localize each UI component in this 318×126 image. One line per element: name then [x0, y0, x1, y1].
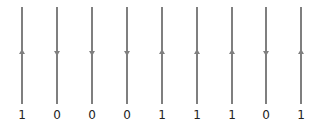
bit-label: 0 — [82, 108, 102, 122]
wire-line — [21, 7, 23, 104]
arrow-down-icon — [124, 51, 130, 56]
wire-7: 1 — [222, 0, 242, 126]
wire-line — [161, 7, 163, 104]
wire-line — [300, 7, 302, 104]
wire-6: 1 — [187, 0, 207, 126]
arrow-down-icon — [263, 51, 269, 56]
wire-8: 0 — [256, 0, 276, 126]
bit-label: 1 — [222, 108, 242, 122]
wire-2: 0 — [47, 0, 67, 126]
wire-4: 0 — [117, 0, 137, 126]
arrow-down-icon — [54, 51, 60, 56]
arrow-up-icon — [229, 49, 235, 54]
arrow-up-icon — [298, 49, 304, 54]
wire-3: 0 — [82, 0, 102, 126]
bit-label: 0 — [256, 108, 276, 122]
wire-line — [196, 7, 198, 104]
arrow-up-icon — [194, 49, 200, 54]
bit-label: 0 — [47, 108, 67, 122]
bit-label: 0 — [117, 108, 137, 122]
bit-label: 1 — [187, 108, 207, 122]
arrow-up-icon — [159, 49, 165, 54]
arrow-down-icon — [89, 51, 95, 56]
arrow-up-icon — [19, 49, 25, 54]
wire-line — [231, 7, 233, 104]
bit-wire-diagram: 1 0 0 0 1 1 1 0 1 — [0, 0, 318, 126]
bit-label: 1 — [12, 108, 32, 122]
wire-9: 1 — [291, 0, 311, 126]
wire-1: 1 — [12, 0, 32, 126]
wire-5: 1 — [152, 0, 172, 126]
bit-label: 1 — [152, 108, 172, 122]
bit-label: 1 — [291, 108, 311, 122]
